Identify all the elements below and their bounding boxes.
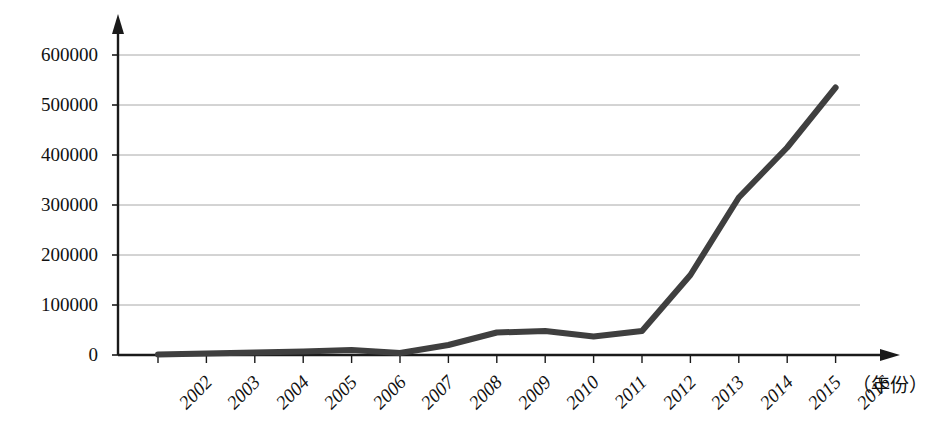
- x-axis-tick-label: 2002: [175, 372, 215, 412]
- x-axis-tick-label: 2009: [514, 372, 554, 412]
- x-axis-tick-label: 2011: [610, 372, 649, 411]
- x-axis-tick-label: 2006: [369, 372, 409, 412]
- x-axis-tick-label: 2015: [804, 372, 844, 412]
- x-axis-tick-labels: 2002200320042005200620072008200920102011…: [0, 0, 930, 435]
- x-axis-tick-label: 2014: [756, 372, 796, 412]
- x-axis-title: （年份）: [852, 376, 928, 395]
- x-axis-tick-label: 2003: [224, 372, 264, 412]
- x-axis-tick-label: 2010: [562, 372, 602, 412]
- x-axis-tick-label: 2013: [708, 372, 748, 412]
- x-axis-tick-label: 2008: [466, 372, 506, 412]
- line-chart: 0100000200000300000400000500000600000 20…: [0, 0, 930, 435]
- x-axis-tick-label: 2005: [320, 372, 360, 412]
- x-axis-tick-label: 2012: [659, 372, 699, 412]
- x-axis-tick-label: 2004: [272, 372, 312, 412]
- x-axis-tick-label: 2007: [417, 372, 457, 412]
